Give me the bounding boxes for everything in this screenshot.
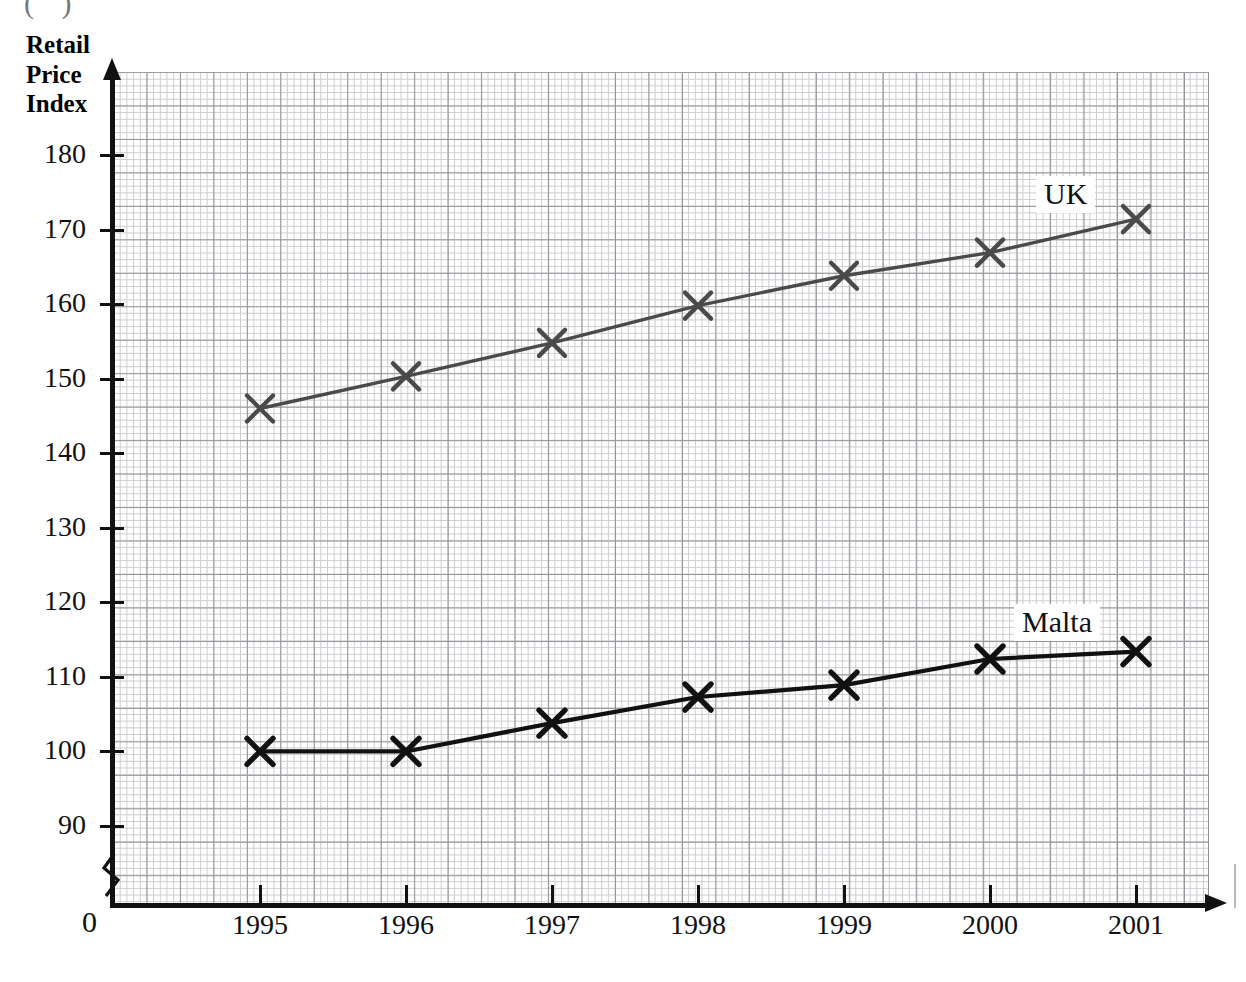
scan-edge-artifact	[1234, 864, 1236, 908]
data-point-marker	[685, 293, 711, 319]
chart-page: ( ) Retail Price Index 0 901001101201301…	[0, 0, 1246, 982]
data-point-marker	[1123, 206, 1149, 232]
series-line	[260, 219, 1136, 408]
series-layer	[0, 0, 1246, 982]
data-point-marker	[539, 330, 565, 356]
data-point-marker	[393, 363, 419, 389]
series-label-uk: UK	[1036, 176, 1095, 213]
data-point-marker	[247, 395, 273, 421]
series-malta	[247, 639, 1149, 765]
series-label-malta: Malta	[1014, 604, 1100, 641]
series-uk	[247, 206, 1149, 421]
